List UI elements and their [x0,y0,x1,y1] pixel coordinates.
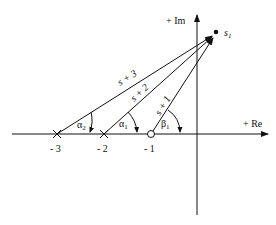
tick-label-minus-1: - 1 [144,143,155,154]
tick-label-minus-3: - 3 [50,143,61,154]
s-plane-diagram: + Im + Re s1 s + 3 s + 2 s + 1 - 3 - 2 -… [0,0,276,225]
angle-label-alpha-1: α1 [119,118,128,131]
angle-label-beta-1: β1 [161,118,170,131]
real-axis-label: + Re [243,118,263,129]
diagram-svg: + Im + Re s1 s + 3 s + 2 s + 1 - 3 - 2 -… [0,0,276,225]
tick-label-minus-2: - 2 [97,143,108,154]
angle-label-alpha-2: α2 [77,119,86,132]
point-s1-label: s1 [224,27,231,40]
angle-arc-alpha-2 [90,112,92,132]
point-s1 [214,30,219,35]
angle-arc-alpha-1 [128,112,137,132]
zero-marker-minus-1 [148,131,155,138]
angle-arc-beta-1 [168,110,180,132]
vector-label-s-plus-2: s + 2 [128,82,151,104]
imag-axis-label: + Im [166,15,185,26]
